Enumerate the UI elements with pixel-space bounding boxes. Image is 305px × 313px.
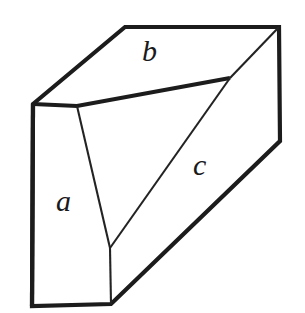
edge-label-a: a bbox=[56, 186, 71, 216]
edge-label-c: c bbox=[193, 150, 206, 180]
edge-label-b: b bbox=[142, 36, 157, 66]
edge-front-left-vertical bbox=[32, 104, 33, 306]
edge-bottom-vertical bbox=[110, 248, 111, 304]
geometry-figure: a b c bbox=[0, 0, 305, 313]
